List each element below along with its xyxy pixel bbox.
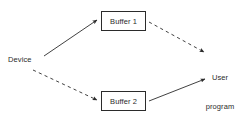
edge-device-to-buffer-2 xyxy=(33,70,97,100)
edge-device-to-buffer-1 xyxy=(44,20,97,56)
node-buffer-1-label: Buffer 1 xyxy=(110,17,137,26)
node-buffer-2-label: Buffer 2 xyxy=(110,97,137,106)
node-user-program-line-1: User xyxy=(198,73,242,83)
node-buffer-1: Buffer 1 xyxy=(101,11,146,31)
node-device: Device xyxy=(8,55,32,65)
edge-buffer-1-to-user-program xyxy=(149,22,204,52)
node-buffer-2: Buffer 2 xyxy=(101,91,146,111)
node-user-program-line-2: program xyxy=(198,102,242,112)
edge-buffer-2-to-user-program xyxy=(149,79,205,101)
diagram-canvas: Device Buffer 1 Buffer 2 User program xyxy=(0,0,243,120)
node-user-program: User program xyxy=(198,54,242,120)
